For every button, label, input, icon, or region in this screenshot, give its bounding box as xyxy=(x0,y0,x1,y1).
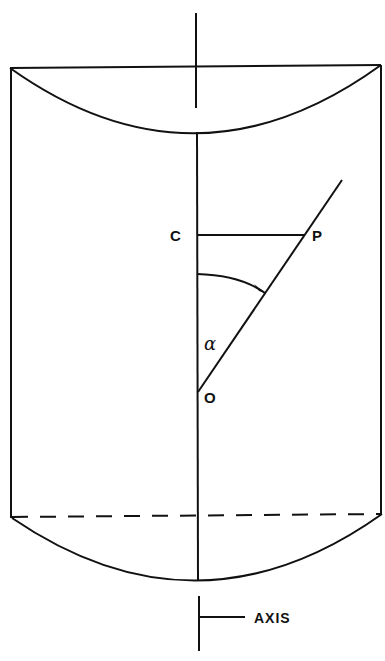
line-op xyxy=(198,180,342,392)
label-alpha: α xyxy=(204,333,216,354)
label-p: P xyxy=(312,227,322,244)
label-axis: AXIS xyxy=(254,610,291,626)
cylinder-diagram: C P O α AXIS xyxy=(0,0,385,661)
label-c: C xyxy=(170,227,181,244)
axis-main xyxy=(197,132,198,581)
label-o: O xyxy=(204,389,216,406)
angle-arc xyxy=(197,274,265,293)
